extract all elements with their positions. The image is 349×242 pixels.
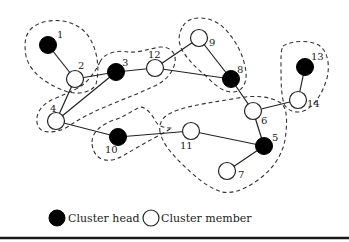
node-label: 2 [78,60,84,71]
cluster-member-icon [219,163,236,180]
node-9: 9 [191,30,216,49]
node-label: 13 [311,51,324,62]
node-5: 5 [256,132,279,155]
node-label: 6 [261,115,267,126]
node-12: 12 [147,49,164,77]
legend-cluster-member-icon [143,210,159,226]
legend-cluster-member-label: Cluster member [161,212,252,225]
legend-cluster-head-icon [49,210,65,226]
cluster-member-icon [245,103,262,120]
edge-10-4 [56,121,118,137]
node-label: 12 [148,49,161,60]
edge-11-10 [118,131,191,137]
node-1: 1 [40,29,64,54]
edge-5-11 [191,131,264,146]
node-label: 14 [307,98,320,109]
node-label: 9 [209,37,215,48]
cluster-network-diagram: 1234567891011121314 Cluster head Cluster… [0,0,349,242]
node-3: 3 [108,57,129,81]
cluster-head-icon [256,138,273,155]
cluster-member-icon [48,113,65,130]
cluster-member-icon [67,71,84,88]
node-2: 2 [67,60,85,88]
node-label: 5 [272,132,278,143]
node-label: 10 [105,144,118,155]
legend-cluster-head-label: Cluster head [68,212,140,225]
cluster-member-icon [290,92,307,109]
node-11: 11 [180,123,200,152]
node-label: 3 [122,57,128,68]
node-label: 7 [238,169,244,180]
cluster-boundaries [25,18,328,193]
node-14: 14 [290,92,320,110]
node-8: 8 [223,64,244,88]
cluster-head-icon [40,37,57,54]
node-label: 1 [57,29,63,40]
node-6: 6 [245,103,268,127]
legend: Cluster head Cluster member [49,210,252,226]
cluster-member-icon [191,30,208,47]
cluster-head-icon [110,129,127,146]
cluster-member-icon [183,123,200,140]
node-13: 13 [297,51,324,76]
node-7: 7 [219,163,245,181]
node-label: 8 [237,64,243,75]
node-label: 4 [50,103,56,114]
cluster-member-icon [147,60,164,77]
node-label: 11 [180,140,193,151]
edge-3-4 [56,72,116,121]
node-10: 10 [105,129,127,156]
